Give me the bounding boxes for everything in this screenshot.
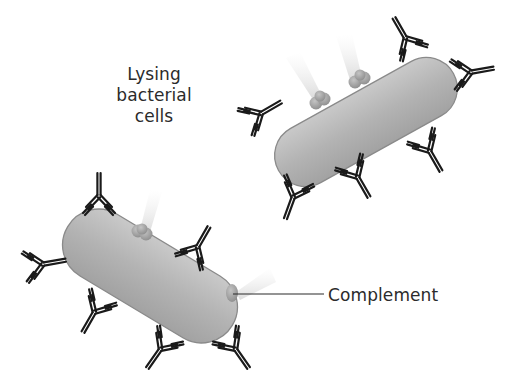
- antibody-icon: [237, 88, 289, 137]
- antibody-icon: [450, 52, 497, 91]
- antibody-icon: [69, 288, 118, 340]
- label-line: bacterial: [108, 85, 200, 106]
- antibody-icon: [406, 127, 455, 179]
- label-line: Lysing: [108, 64, 200, 85]
- lysis-ray: [236, 268, 276, 300]
- complement-cluster: [226, 284, 238, 302]
- complement-label: Complement: [328, 285, 438, 306]
- antibody-icon: [22, 244, 69, 283]
- diagram-canvas: [0, 0, 519, 389]
- label-line: cells: [108, 106, 200, 127]
- lysis-ray: [286, 52, 322, 98]
- bacterium-upper-right: [264, 34, 469, 198]
- bacterium-lower-left: [49, 190, 324, 356]
- antibody-icon: [380, 10, 429, 62]
- lysis-diagram: Lysing bacterial cells Complement: [0, 0, 519, 389]
- lysing-bacterial-cells-label: Lysing bacterial cells: [108, 64, 200, 127]
